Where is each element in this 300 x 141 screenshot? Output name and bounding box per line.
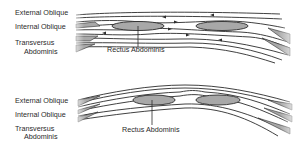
label-external-oblique: External Oblique	[15, 9, 68, 17]
label-internal-oblique: Internal Oblique	[15, 23, 66, 31]
label-transversus-abdominis-line2: Abdominis	[24, 48, 58, 56]
label-external-oblique: External Oblique	[15, 97, 68, 105]
label-transversus-abdominis-line1: Transversus	[15, 39, 54, 47]
label-internal-oblique: Internal Oblique	[15, 111, 66, 119]
label-transversus-abdominis-line2: Abdominis	[24, 133, 58, 141]
top-panel: External Oblique Internal Oblique Transv…	[0, 0, 300, 70]
label-rectus-abdominis: Rectus Abdominis	[107, 46, 165, 54]
label-rectus-abdominis: Rectus Abdominis	[122, 126, 180, 134]
bottom-panel: External Oblique Internal Oblique Transv…	[0, 70, 300, 141]
